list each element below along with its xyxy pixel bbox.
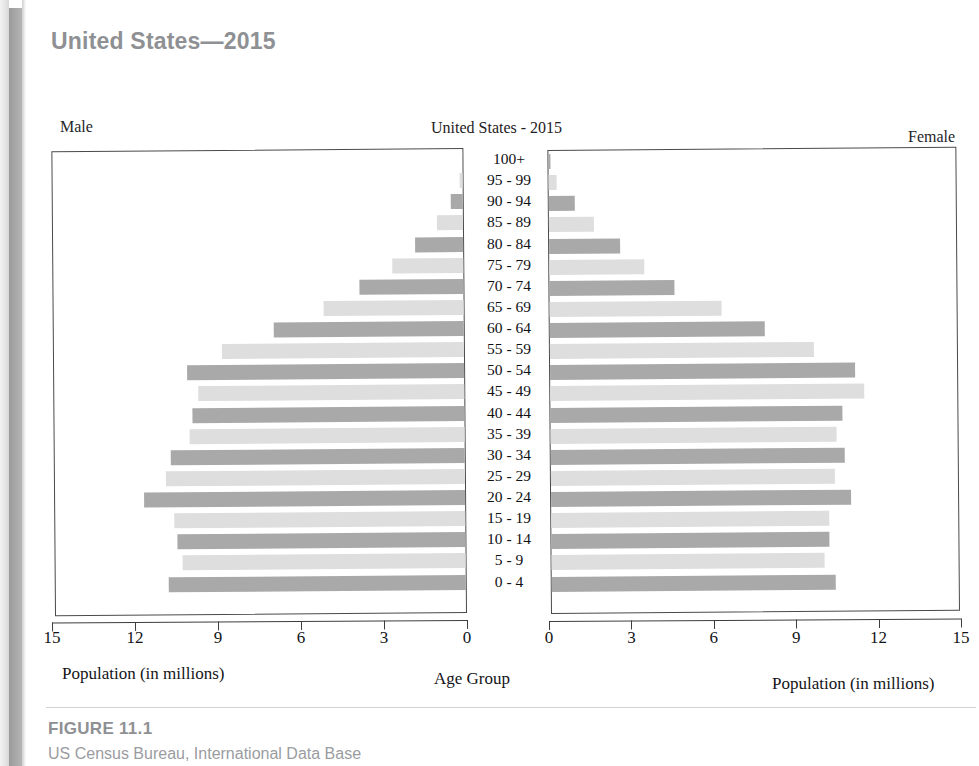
bar-male-25-29 <box>166 469 465 486</box>
bar-female-15-19 <box>551 511 829 528</box>
bar-male-5-9 <box>183 553 466 570</box>
age-group-label: 20 - 24 <box>469 486 549 507</box>
bar-row <box>56 572 466 596</box>
bar-female-10-14 <box>551 532 829 549</box>
axis-tick-label: 0 <box>545 628 554 648</box>
axis-tick <box>961 618 962 627</box>
bar-female-100+ <box>548 154 550 169</box>
age-group-label: 65 - 69 <box>469 296 549 317</box>
axis-tick-label: 9 <box>792 628 801 648</box>
age-group-label: 30 - 34 <box>469 444 549 465</box>
x-axis-female <box>549 618 961 622</box>
figure-footer-divider <box>46 707 976 708</box>
plot-area-female <box>547 147 960 614</box>
page-root: United States—2015 Male United States - … <box>0 0 979 766</box>
bar-male-0-4 <box>169 575 466 592</box>
axis-tick-label: 6 <box>297 628 306 648</box>
bar-male-90-94 <box>450 194 462 209</box>
x-axis-caption-female: Population (in millions) <box>772 674 934 694</box>
bar-female-30-34 <box>551 447 846 464</box>
age-group-label: 5 - 9 <box>469 549 549 570</box>
figure-source: US Census Bureau, International Data Bas… <box>48 745 361 766</box>
bar-female-85-89 <box>549 217 594 232</box>
x-axis-male <box>52 620 467 624</box>
bar-female-45-49 <box>550 384 864 401</box>
bar-male-20-24 <box>144 490 465 508</box>
age-group-label: 100+ <box>469 148 549 169</box>
bar-male-75-79 <box>392 258 464 274</box>
bar-female-20-24 <box>551 490 851 507</box>
age-group-label: 50 - 54 <box>469 359 549 380</box>
age-group-label: 35 - 39 <box>469 423 549 444</box>
bar-female-50-54 <box>550 363 855 380</box>
legend-label-female: Female <box>908 128 955 146</box>
axis-tick-label: 15 <box>44 628 61 648</box>
bar-female-65-69 <box>550 301 722 317</box>
age-group-label: 80 - 84 <box>469 233 549 254</box>
bar-male-35-39 <box>190 427 465 444</box>
plot-area-male <box>51 148 467 616</box>
bar-male-70-74 <box>359 279 463 295</box>
age-group-label: 45 - 49 <box>469 380 549 401</box>
x-axis-caption-male: Population (in millions) <box>62 664 224 684</box>
chart-title: United States - 2015 <box>431 119 562 137</box>
bar-male-45-49 <box>198 384 465 401</box>
bar-row <box>552 570 959 594</box>
bar-female-40-44 <box>550 405 842 422</box>
bar-male-65-69 <box>323 300 463 316</box>
axis-tick-label: 6 <box>710 628 719 648</box>
age-group-label: 15 - 19 <box>469 507 549 528</box>
figure-number: FIGURE 11.1 <box>48 719 152 739</box>
bar-male-80-84 <box>415 237 463 252</box>
bar-male-55-59 <box>222 342 464 359</box>
bar-female-55-59 <box>550 342 815 359</box>
age-group-label: 85 - 89 <box>469 211 549 232</box>
age-group-label: 90 - 94 <box>469 190 549 211</box>
bar-male-40-44 <box>192 406 464 423</box>
axis-tick-label: 12 <box>870 628 887 648</box>
bar-female-60-64 <box>550 321 766 338</box>
age-group-label: 10 - 14 <box>469 528 549 549</box>
bar-male-10-14 <box>177 532 465 549</box>
bar-female-0-4 <box>552 574 836 591</box>
axis-tick-label: 3 <box>380 628 389 648</box>
age-group-axis: 100+95 - 9990 - 9485 - 8980 - 8475 - 797… <box>469 148 549 614</box>
legend-label-male: Male <box>60 118 93 136</box>
bar-series-female <box>548 148 959 613</box>
bar-female-75-79 <box>549 259 645 275</box>
age-group-label: 75 - 79 <box>469 254 549 275</box>
axis-tick-label: 0 <box>463 628 472 648</box>
bar-female-70-74 <box>549 280 675 296</box>
bar-series-male <box>52 149 466 615</box>
age-group-label: 55 - 59 <box>469 338 549 359</box>
bar-female-90-94 <box>549 196 575 211</box>
bar-female-25-29 <box>551 469 835 486</box>
age-group-label: 60 - 64 <box>469 317 549 338</box>
bar-male-50-54 <box>187 363 465 380</box>
age-group-label: 95 - 99 <box>469 169 549 190</box>
age-group-label: 0 - 4 <box>469 571 549 592</box>
bar-male-60-64 <box>274 321 464 337</box>
bar-male-95-99 <box>459 173 462 188</box>
bar-female-35-39 <box>551 426 837 443</box>
bar-female-80-84 <box>549 238 620 254</box>
age-group-label: 40 - 44 <box>469 402 549 423</box>
y-axis-caption-center: Age Group <box>434 669 510 689</box>
bar-male-85-89 <box>437 215 463 230</box>
axis-tick-label: 15 <box>953 628 970 648</box>
age-group-label: 70 - 74 <box>469 275 549 296</box>
axis-tick-label: 9 <box>214 628 223 648</box>
bar-male-30-34 <box>171 448 465 465</box>
bar-female-95-99 <box>549 175 557 190</box>
figure-population-pyramid: Male United States - 2015 Female 100+95 … <box>0 0 979 766</box>
axis-tick <box>879 619 880 628</box>
age-group-label: 25 - 29 <box>469 465 549 486</box>
axis-tick-label: 12 <box>127 628 144 648</box>
axis-tick-label: 3 <box>627 628 636 648</box>
bar-female-5-9 <box>552 553 825 570</box>
bar-male-15-19 <box>174 511 465 528</box>
